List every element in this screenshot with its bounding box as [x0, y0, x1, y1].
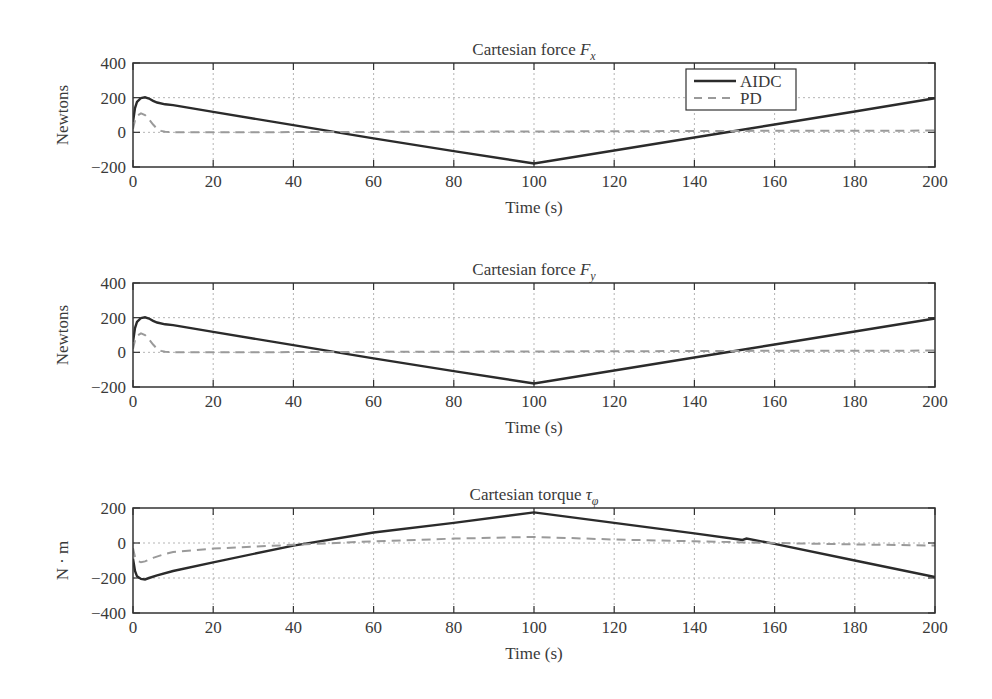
x-tick-label: 100	[521, 392, 547, 411]
legend: AIDCPD	[686, 69, 796, 110]
x-axis-label: Time (s)	[505, 644, 562, 663]
grid	[133, 63, 935, 167]
x-tick-label: 160	[762, 392, 788, 411]
subplot-title: Cartesian torque τφ	[470, 485, 599, 508]
x-tick-label: 20	[205, 618, 222, 637]
x-tick-label: 160	[762, 618, 788, 637]
x-tick-label: 80	[445, 392, 462, 411]
x-tick-label: 200	[922, 172, 948, 191]
x-tick-label: 180	[842, 618, 868, 637]
y-tick-label: −400	[91, 604, 126, 623]
x-tick-label: 200	[922, 618, 948, 637]
x-tick-label: 140	[682, 618, 708, 637]
x-tick-label: 60	[365, 392, 382, 411]
figure: Cartesian force Fx0204060801001201401601…	[0, 0, 992, 699]
x-tick-label: 120	[601, 618, 627, 637]
y-tick-label: 400	[101, 274, 127, 293]
y-axis-label: Newtons	[53, 305, 72, 365]
x-axis-label: Time (s)	[505, 198, 562, 217]
x-tick-label: 20	[205, 172, 222, 191]
x-tick-label: 40	[285, 172, 302, 191]
x-tick-label: 140	[682, 392, 708, 411]
x-tick-label: 0	[129, 172, 138, 191]
x-tick-label: 100	[521, 618, 547, 637]
x-tick-label: 40	[285, 618, 302, 637]
x-tick-label: 80	[445, 618, 462, 637]
x-tick-label: 60	[365, 172, 382, 191]
y-tick-label: −200	[91, 378, 126, 397]
y-tick-label: 400	[101, 54, 127, 73]
x-tick-label: 0	[129, 392, 138, 411]
x-tick-label: 100	[521, 172, 547, 191]
y-axis-label: N · m	[53, 541, 72, 581]
subplot-3: Cartesian torque τφ020406080100120140160…	[53, 485, 948, 663]
x-tick-label: 0	[129, 618, 138, 637]
subplot-2: Cartesian force Fy0204060801001201401601…	[53, 260, 948, 437]
grid	[133, 283, 935, 387]
x-tick-label: 60	[365, 618, 382, 637]
y-tick-label: 200	[101, 89, 127, 108]
y-tick-label: 200	[101, 499, 127, 518]
x-tick-label: 20	[205, 392, 222, 411]
y-tick-label: −200	[91, 158, 126, 177]
y-tick-label: 200	[101, 309, 127, 328]
subplot-title: Cartesian force Fx	[472, 40, 596, 63]
subplot-title: Cartesian force Fy	[472, 260, 596, 283]
y-tick-label: 0	[118, 123, 127, 142]
subplot-1: Cartesian force Fx0204060801001201401601…	[53, 40, 948, 217]
x-tick-label: 120	[601, 172, 627, 191]
x-tick-label: 40	[285, 392, 302, 411]
grid	[133, 508, 935, 613]
x-tick-label: 120	[601, 392, 627, 411]
x-tick-label: 180	[842, 172, 868, 191]
x-tick-label: 160	[762, 172, 788, 191]
legend-label-pd: PD	[740, 89, 762, 108]
y-tick-label: 0	[118, 534, 127, 553]
y-tick-label: 0	[118, 343, 127, 362]
x-tick-label: 80	[445, 172, 462, 191]
x-tick-label: 180	[842, 392, 868, 411]
x-axis-label: Time (s)	[505, 418, 562, 437]
y-tick-label: −200	[91, 569, 126, 588]
x-tick-label: 200	[922, 392, 948, 411]
x-tick-label: 140	[682, 172, 708, 191]
y-axis-label: Newtons	[53, 85, 72, 145]
